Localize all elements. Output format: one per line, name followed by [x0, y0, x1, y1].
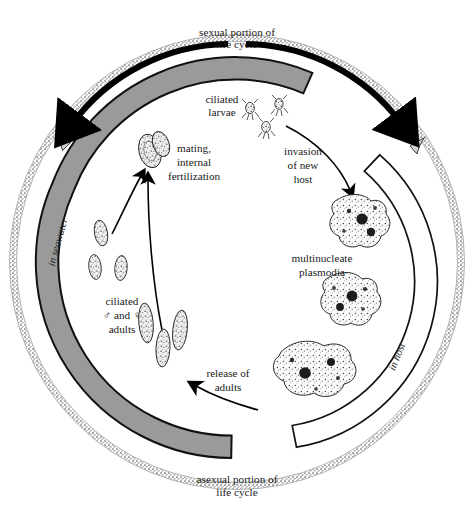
release-line1: release of	[206, 367, 249, 379]
asexual-portion-line1: asexual portion of	[197, 473, 278, 485]
adult-2	[155, 329, 171, 368]
life-cycle-figure: in seawater in host sexual portion of li…	[0, 0, 474, 520]
larva-1	[242, 99, 259, 120]
juvenile-3	[114, 255, 128, 281]
mating-pair-organism	[135, 129, 173, 170]
release-line2: adults	[215, 381, 242, 393]
ciliated-adults-line2: ♂ and ♀	[103, 309, 142, 321]
sexual-portion-line2: life cycle	[216, 38, 257, 50]
plasmodia-line2: plasmodia	[299, 266, 345, 278]
juvenile-2	[88, 254, 103, 280]
invasion-line3: host	[294, 173, 314, 185]
multinucleate-plasmodia-label: multinucleate plasmodia	[292, 252, 353, 278]
host-ring-arrowhead	[410, 138, 425, 155]
invasion-label: invasion of new host	[284, 145, 322, 185]
mating-line1: mating,	[177, 142, 211, 154]
adult-1	[137, 302, 155, 343]
larva-2	[271, 95, 288, 116]
plasmodium-3	[273, 341, 355, 396]
sexual-portion-line1: sexual portion of	[199, 26, 275, 38]
ciliated-larvae-line1: ciliated	[206, 93, 239, 105]
asexual-portion-line2: life cycle	[216, 486, 257, 498]
adult-3	[171, 309, 190, 350]
release-of-adults-label: release of adults	[206, 367, 249, 393]
mating-line2: internal	[177, 156, 211, 168]
mating-line3: fertilization	[168, 170, 221, 182]
ciliated-larvae-line2: larvae	[208, 106, 235, 118]
ciliated-adults-line3: adults	[109, 323, 136, 335]
mating-label: mating, internal fertilization	[168, 142, 221, 182]
invasion-line2: of new	[288, 159, 320, 171]
adults-to-mating-arrow-right	[148, 180, 162, 330]
plasmodium-1	[330, 194, 390, 247]
larva-3	[258, 118, 275, 139]
adults-to-mating-arrow-left	[112, 176, 141, 234]
plasmodium-2	[321, 272, 381, 325]
plasmodia-line1: multinucleate	[292, 252, 353, 264]
ciliated-adults-label: ciliated ♂ and ♀ adults	[103, 295, 142, 335]
juvenile-1	[92, 219, 109, 247]
ciliated-adults-line1: ciliated	[106, 295, 139, 307]
ciliated-larvae-label: ciliated larvae	[206, 93, 239, 118]
